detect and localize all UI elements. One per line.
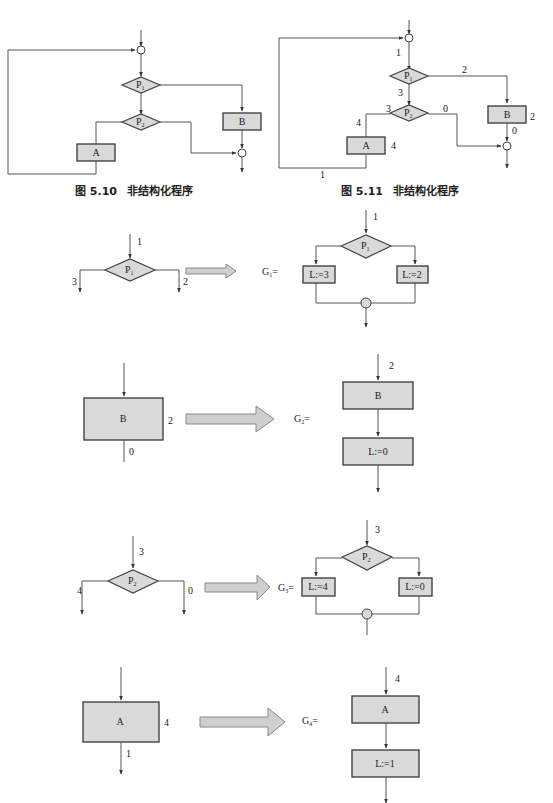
transform-arrow xyxy=(200,708,285,736)
assign-label: L:=2 xyxy=(402,269,422,280)
edge-label: 3 xyxy=(386,103,391,114)
edge-label: 0 xyxy=(129,446,134,457)
edge-label: 1 xyxy=(396,47,401,58)
edge-label: 2 xyxy=(389,360,394,371)
g2-label: G2= xyxy=(294,413,310,425)
figure-5-11: 1 1 P1 2 3 P2 3 4 0 A 4 B 2 0 图 5.11非结构化… xyxy=(279,20,535,198)
transform-g3: 3 P2 4 0 G3= 3 P2 L:=4 L:=0 xyxy=(77,520,432,635)
edge-label: 2 xyxy=(462,64,467,75)
edge-label: 1 xyxy=(373,211,378,222)
process-a-label: A xyxy=(92,147,100,158)
transform-g1: 1 P1 3 2 G1= 1 P1 L:=3 L:=2 xyxy=(72,210,428,327)
transform-g4: A 4 1 G4= 4 A L:=1 xyxy=(83,667,419,803)
transform-g2: B 2 0 G2= 2 B L:=0 xyxy=(84,354,413,492)
assign-label: L:=4 xyxy=(308,581,328,592)
edge-label: 4 xyxy=(395,673,400,684)
junction xyxy=(361,298,371,308)
g4-label: G4= xyxy=(302,715,318,727)
transform-arrow xyxy=(186,264,236,278)
process-a-label: A xyxy=(381,704,389,715)
transform-arrow xyxy=(186,406,274,432)
junction-bottom xyxy=(503,142,511,150)
edge-label: 4 xyxy=(391,140,396,151)
edge-label: 1 xyxy=(126,748,131,759)
edge-label: 3 xyxy=(72,276,77,287)
process-a-label: A xyxy=(116,716,124,727)
edge-label: 3 xyxy=(398,87,403,98)
edge-label: 4 xyxy=(356,117,361,128)
process-a-label: A xyxy=(362,140,370,151)
edge-label: 0 xyxy=(512,125,517,136)
figure-caption-5-10: 图 5.10非结构化程序 xyxy=(75,184,193,198)
edge-label: 0 xyxy=(443,103,448,114)
edge-label: 3 xyxy=(375,524,380,535)
g3-label: G3= xyxy=(278,582,294,594)
junction-bottom xyxy=(238,149,246,157)
g1-label: G1= xyxy=(262,266,278,278)
assign-label: L:=3 xyxy=(309,269,329,280)
junction-top xyxy=(137,46,145,54)
edge-label: 1 xyxy=(137,236,142,247)
assign-label: L:=1 xyxy=(375,758,395,769)
junction xyxy=(362,609,372,619)
edge-label: 2 xyxy=(168,415,173,426)
flowchart-diagram: P1 P2 A B 图 5.10非结构化程序 1 1 P1 2 3 xyxy=(0,0,553,803)
figure-5-10: P1 P2 A B 图 5.10非结构化程序 xyxy=(8,30,261,198)
edge-label: 4 xyxy=(164,717,169,728)
assign-label: L:=0 xyxy=(368,446,388,457)
edge-label: 3 xyxy=(139,546,144,557)
junction-top xyxy=(405,34,413,42)
transform-arrow xyxy=(205,575,270,600)
process-b-label: B xyxy=(239,116,246,127)
process-b-label: B xyxy=(375,390,382,401)
figure-caption-5-11: 图 5.11非结构化程序 xyxy=(341,184,459,198)
assign-label: L:=0 xyxy=(405,581,425,592)
edge-label: 0 xyxy=(188,585,193,596)
process-b-label: B xyxy=(504,109,511,120)
process-b-label: B xyxy=(120,413,127,424)
edge-label: 4 xyxy=(77,585,82,596)
edge-label: 1 xyxy=(320,169,325,180)
edge-label: 2 xyxy=(183,276,188,287)
edge-label: 2 xyxy=(530,111,535,122)
